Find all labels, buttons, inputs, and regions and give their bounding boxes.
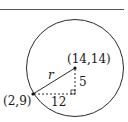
- right-angle-marker: [71, 90, 75, 94]
- circle-diagram: (14,14) (2,9) r 5 12: [0, 0, 128, 122]
- radius-label: r: [48, 68, 55, 82]
- center-point-label: (14,14): [67, 52, 111, 66]
- circle-point-label: (2,9): [3, 94, 31, 108]
- circle-point-dot: [31, 92, 34, 95]
- center-point-dot: [73, 66, 76, 69]
- radius-line: [33, 68, 75, 94]
- horizontal-leg-label: 12: [51, 95, 66, 109]
- vertical-leg-label: 5: [79, 75, 87, 89]
